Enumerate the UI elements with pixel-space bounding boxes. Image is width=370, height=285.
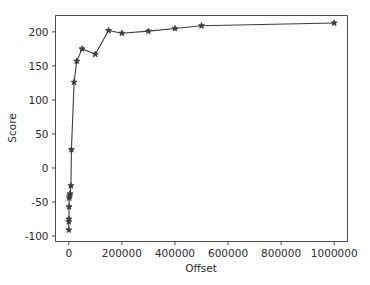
y-tick-label: -50: [31, 196, 48, 208]
x-tick-label: 800000: [261, 247, 301, 259]
y-axis-label: Score: [6, 113, 18, 142]
x-tick-label: 400000: [155, 247, 195, 259]
y-tick-label: 0: [42, 162, 49, 174]
y-tick-label: 100: [28, 94, 48, 106]
chart-figure: 02000004000006000008000001000000 -100-50…: [0, 0, 370, 285]
x-tick-label: 600000: [208, 247, 248, 259]
y-tick-label: 200: [28, 26, 48, 38]
y-tick-label: -100: [25, 230, 49, 242]
y-tick-label: 150: [28, 60, 48, 72]
x-axis-label: Offset: [185, 262, 217, 274]
x-tick-label: 1000000: [311, 247, 358, 259]
x-tick-label: 0: [65, 247, 72, 259]
x-tick-label: 200000: [102, 247, 142, 259]
chart-canvas: 02000004000006000008000001000000 -100-50…: [0, 0, 370, 285]
y-tick-label: 50: [35, 128, 48, 140]
